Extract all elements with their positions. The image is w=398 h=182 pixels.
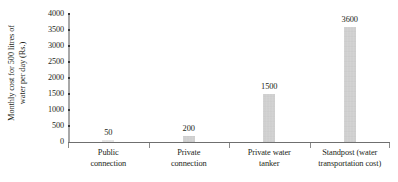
bar-value-label: 200 (169, 125, 209, 133)
x-category-line: transportation cost) (310, 158, 391, 169)
x-category-line: Public (68, 147, 149, 158)
y-tick-label: 1500 (33, 90, 64, 98)
y-tick-label: 3000 (33, 42, 64, 50)
y-tick-mark (68, 125, 70, 127)
y-tick-mark (68, 93, 70, 95)
y-tick-mark (68, 61, 70, 63)
bar (183, 136, 195, 142)
x-category-line: connection (68, 158, 149, 169)
x-category-line: tanker (229, 158, 310, 169)
x-axis-category-labels: PublicconnectionPrivateconnectionPrivate… (68, 147, 390, 179)
y-tick-mark (68, 29, 70, 31)
plot-area: 5020015003600 (68, 14, 390, 142)
x-category-line: Standpost (water (310, 147, 391, 158)
x-category-label: Privateconnection (149, 147, 230, 169)
y-tick-label: 1000 (33, 106, 64, 114)
bar (263, 94, 275, 142)
x-category-label: Private watertanker (229, 147, 310, 169)
x-category-line: Private (149, 147, 230, 158)
y-tick-mark (68, 77, 70, 79)
y-tick-label: 3500 (33, 26, 64, 34)
y-tick-label: 2500 (33, 58, 64, 66)
y-tick-label: 2000 (33, 74, 64, 82)
x-category-line: connection (149, 158, 230, 169)
y-tick-label: 0 (33, 138, 64, 146)
y-axis-title-text: Monthly cost for 500 litres of water per… (7, 25, 28, 121)
bar-value-label: 3600 (330, 16, 370, 24)
y-tick-label: 4000 (33, 10, 64, 18)
y-axis-title-line1: Monthly cost for 500 litres of (7, 25, 18, 121)
y-axis-tick-labels: 05001000150020002500300035004000 (33, 0, 64, 182)
y-axis-title-line2: water per day (Rs.) (17, 25, 28, 121)
bar-value-label: 1500 (249, 83, 289, 91)
y-axis-title: Monthly cost for 500 litres of water per… (0, 0, 34, 146)
x-category-label: Standpost (watertransportation cost) (310, 147, 391, 169)
x-category-label: Publicconnection (68, 147, 149, 169)
bar (102, 140, 114, 142)
bar (344, 27, 356, 142)
x-category-line: Private water (229, 147, 310, 158)
y-tick-label: 500 (33, 122, 64, 130)
y-tick-mark (68, 13, 70, 15)
bar-value-label: 50 (88, 129, 128, 137)
bar-chart-figure: Monthly cost for 500 litres of water per… (0, 0, 398, 182)
y-tick-mark (68, 45, 70, 47)
y-tick-mark (68, 109, 70, 111)
